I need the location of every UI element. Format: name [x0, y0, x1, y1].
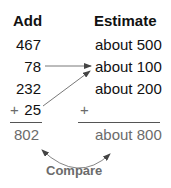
compare-label: Compare [46, 164, 102, 177]
arrows [0, 0, 171, 188]
arrow-25-to-about-100-icon [43, 71, 90, 106]
